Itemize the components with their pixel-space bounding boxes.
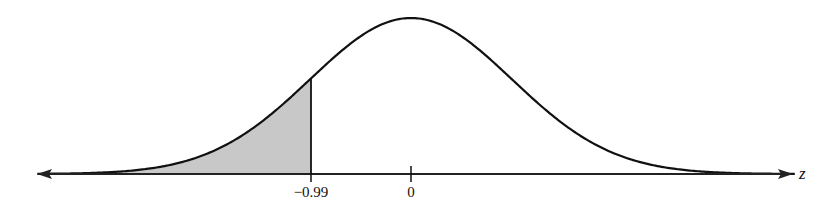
tick-label-zero: 0	[407, 184, 415, 200]
normal-density-curve	[37, 18, 795, 174]
tick-label-neg: −0.99	[294, 184, 329, 200]
normal-curve-chart: −0.99 0 z	[0, 0, 840, 213]
axis-label-z: z	[798, 164, 806, 183]
shaded-left-tail	[37, 78, 311, 174]
